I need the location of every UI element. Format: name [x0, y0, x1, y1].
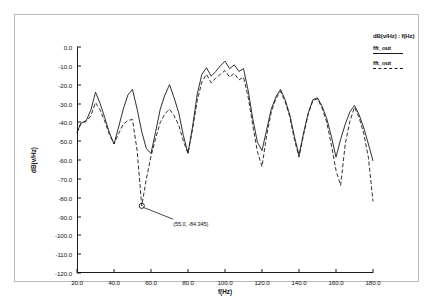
x-tick-label: 120.0: [255, 279, 270, 286]
y-tick-label: -70.0: [58, 175, 72, 182]
marker-value-label: (55.0, -84.345): [173, 221, 208, 227]
y-tick-label: -90.0: [58, 213, 72, 220]
legend-entry-label: fft_out: [373, 45, 433, 51]
y-tick-label: 0.0: [64, 44, 72, 51]
x-tick-label: 60.0: [145, 279, 157, 286]
plot-area: 0.0-10.0-20.0-30.0-40.0-50.0-60.0-70.0-8…: [77, 47, 373, 273]
legend-entries: fft_outfft_out: [373, 45, 433, 69]
x-tick-label: 100.0: [218, 279, 233, 286]
y-tick-label: -120.0: [55, 270, 72, 277]
legend-entry-label: fft_out: [373, 60, 433, 66]
legend-entry-1[interactable]: fft_out: [373, 60, 433, 69]
marker-leader-line: [143, 207, 173, 219]
y-tick-label: -30.0: [58, 100, 72, 107]
y-tick-label: -10.0: [58, 62, 72, 69]
x-tick-label: 180.0: [366, 279, 381, 286]
x-tick-label: 20.0: [71, 279, 83, 286]
y-tick-label: -100.0: [55, 232, 72, 239]
legend-swatch-solid: [373, 53, 403, 54]
legend-title: dB(v/Hz) : f(Hz): [373, 33, 433, 39]
series-lines: [77, 47, 373, 273]
y-tick-label: -40.0: [58, 119, 72, 126]
y-tick-label: -80.0: [58, 194, 72, 201]
x-tick-label: 140.0: [292, 279, 307, 286]
y-axis-label: dB(v/Hz): [30, 147, 37, 173]
series-line-1: [77, 71, 373, 206]
legend: dB(v/Hz) : f(Hz) fft_outfft_out: [373, 33, 433, 69]
x-tick-label: 160.0: [329, 279, 344, 286]
y-tick-label: -50.0: [58, 138, 72, 145]
x-tick-label: 40.0: [108, 279, 120, 286]
chart-screenshot: 0.0-10.0-20.0-30.0-40.0-50.0-60.0-70.0-8…: [0, 0, 433, 297]
series-line-0: [77, 61, 373, 161]
y-tick-label: -60.0: [58, 157, 72, 164]
legend-entry-0[interactable]: fft_out: [373, 45, 433, 54]
plot-window-frame: 0.0-10.0-20.0-30.0-40.0-50.0-60.0-70.0-8…: [14, 14, 419, 282]
x-axis-label: f(Hz): [218, 288, 232, 295]
y-tick-label: -20.0: [58, 81, 72, 88]
x-tick-label: 80.0: [182, 279, 194, 286]
legend-swatch-dashed: [373, 68, 403, 69]
y-tick-label: -110.0: [56, 251, 72, 258]
